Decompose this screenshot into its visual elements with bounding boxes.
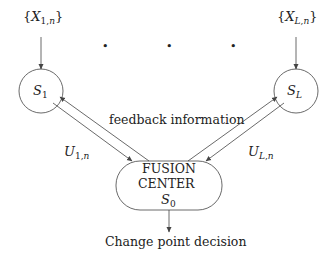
diagram-canvas: {X1,n} {XL,n} • • • S1 SL feedback infor…: [0, 0, 332, 259]
message-label-1: U1,n: [64, 145, 89, 161]
feedback-label: feedback information: [109, 114, 245, 127]
message-var: U: [64, 144, 75, 159]
fusion-center-line2: CENTER: [138, 178, 195, 191]
brace-close: }: [309, 9, 317, 24]
message-sub-n: n: [268, 151, 274, 161]
message-label-L: UL,n: [248, 145, 274, 161]
ellipsis-dot-3: •: [230, 41, 237, 52]
ellipsis-dot-2: •: [166, 41, 173, 52]
message-sub-n: n: [84, 151, 90, 161]
input-label-1: {X1,n}: [23, 10, 63, 26]
fusion-center-line1: FUSION: [142, 163, 196, 176]
ellipsis-dot-1: •: [102, 41, 109, 52]
input-var: X: [285, 9, 294, 24]
input-var: X: [31, 9, 40, 24]
sensor-label-L: SL: [287, 84, 302, 100]
message-var: U: [248, 144, 259, 159]
sensor-sub: L: [296, 90, 302, 100]
brace-close: }: [55, 9, 63, 24]
sensor-label-1: S1: [33, 84, 48, 100]
sensor-var: S: [287, 83, 296, 98]
fusion-var: S: [161, 192, 170, 207]
output-label: Change point decision: [105, 236, 246, 249]
sensor-sub: 1: [42, 90, 48, 100]
sensor-var: S: [33, 83, 42, 98]
diagram-shapes: [0, 0, 332, 259]
fusion-center-label: S0: [161, 193, 176, 209]
fusion-sub: 0: [170, 199, 176, 209]
input-label-L: {XL,n}: [277, 10, 317, 26]
